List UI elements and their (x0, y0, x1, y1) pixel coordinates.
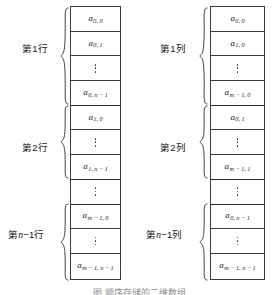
group-label-row-n: 第n−1行 (8, 227, 45, 241)
cell-term: am − 1, 0 (83, 211, 109, 221)
group-label-col-n-suffix: −1列 (161, 229, 182, 240)
group-label-col-n-prefix: 第 (146, 229, 156, 240)
cell-ellipsis (71, 229, 120, 254)
cell-term: a0, 0 (88, 14, 102, 24)
cell-term: a0, n − 1 (225, 211, 250, 221)
cell-subscript: 0, n − 1 (230, 214, 250, 221)
brace-row-n (60, 203, 69, 281)
cell-term: am − 1, 0 (225, 88, 251, 98)
cell-subscript: m − 1, n − 1 (82, 264, 114, 271)
cell-subscript: 0, 1 (93, 41, 103, 48)
cell-term: a0, n − 1 (83, 88, 108, 98)
group-label-row-2: 第2行 (22, 140, 48, 154)
cell: am − 1, n − 1 (71, 254, 120, 279)
group-label-col-1: 第1列 (160, 41, 186, 55)
cell: am − 1, n − 1 (211, 254, 264, 279)
group-label-col-2: 第2列 (160, 140, 186, 154)
cell-term: a1, 0 (88, 113, 102, 123)
cell-term: a0, 0 (230, 14, 244, 24)
cell-term: a1, n − 1 (83, 162, 108, 172)
vertical-dots-icon (95, 62, 97, 74)
cell-subscript: m − 1, 0 (229, 91, 250, 98)
cell: a0, 1 (71, 32, 120, 57)
cell-stack-row-major: a0, 0 a0, 1 a0, n − 1 a1, 0 a1, n − 1 am… (70, 6, 121, 280)
group-label-col-2-suffix: 列 (176, 142, 186, 153)
cell-subscript: 0, 0 (93, 17, 103, 24)
vertical-dots-icon (237, 62, 239, 74)
vertical-dots-icon (95, 136, 97, 148)
cell-ellipsis (71, 180, 120, 205)
figure-caption: 图 顺序存储的二维数组 (0, 286, 279, 295)
cell: am − 1, 0 (71, 205, 120, 230)
cell-subscript: m − 1, 1 (229, 165, 250, 172)
cell: a1, 0 (71, 106, 120, 131)
group-label-row-1-prefix: 第 (22, 43, 32, 54)
cell: a0, 0 (71, 7, 120, 32)
array-storage-figure: 第1行 第2行 第n−1行 a0, 0 a0, 1 (0, 0, 279, 295)
group-label-row-n-prefix: 第 (8, 229, 18, 240)
cell-term: a1, 0 (230, 39, 244, 49)
cell-stack-column-major: a0, 0 a1, 0 am − 1, 0 a0, 1 am − 1, 1 a0… (210, 6, 265, 280)
cell-term: a0, 1 (88, 39, 102, 49)
cell-term: am − 1, 1 (225, 162, 251, 172)
cell-ellipsis (211, 180, 264, 205)
vertical-dots-icon (237, 235, 239, 247)
group-label-row-1-suffix: 行 (38, 43, 48, 54)
group-label-row-n-suffix: −1行 (23, 229, 44, 240)
vertical-dots-icon (237, 185, 239, 197)
cell-subscript: m − 1, 0 (87, 214, 108, 221)
cell-ellipsis (211, 56, 264, 81)
panel-row-major: 第1行 第2行 第n−1行 a0, 0 a0, 1 (0, 0, 140, 283)
cell-subscript: 1, n − 1 (88, 165, 108, 172)
group-label-row-2-suffix: 行 (38, 142, 48, 153)
brace-col-1 (199, 7, 208, 105)
cell-subscript: 1, 0 (235, 41, 245, 48)
brace-row-1 (60, 7, 69, 105)
cell: a0, n − 1 (211, 205, 264, 230)
cell-subscript: m − 1, n − 1 (224, 264, 256, 271)
cell-ellipsis (211, 229, 264, 254)
brace-row-2 (60, 105, 69, 179)
cell-subscript: 0, 0 (235, 17, 245, 24)
cell-subscript: 1, 0 (93, 115, 103, 122)
cell: a0, 1 (211, 106, 264, 131)
cell: a1, 0 (211, 32, 264, 57)
cell-subscript: 0, n − 1 (88, 91, 108, 98)
vertical-dots-icon (95, 235, 97, 247)
cell-term: am − 1, n − 1 (219, 261, 255, 271)
cell-term: am − 1, n − 1 (77, 261, 113, 271)
group-label-col-n: 第n−1列 (146, 227, 183, 241)
cell-subscript: 0, 1 (235, 115, 245, 122)
cell: a0, n − 1 (71, 81, 120, 106)
panel-column-major: 第1列 第2列 第n−1列 a0, 0 a1, 0 am − 1 (140, 0, 279, 283)
vertical-dots-icon (95, 185, 97, 197)
group-label-col-2-prefix: 第 (160, 142, 170, 153)
group-label-row-1: 第1行 (22, 41, 48, 55)
cell: am − 1, 0 (211, 81, 264, 106)
cell-ellipsis (211, 130, 264, 155)
cell: a0, 0 (211, 7, 264, 32)
cell-ellipsis (71, 56, 120, 81)
cell: a1, n − 1 (71, 155, 120, 180)
vertical-dots-icon (237, 136, 239, 148)
brace-col-2 (199, 105, 208, 179)
brace-col-n (199, 203, 208, 281)
group-label-col-1-prefix: 第 (160, 43, 170, 54)
cell-ellipsis (71, 130, 120, 155)
group-label-row-2-prefix: 第 (22, 142, 32, 153)
cell-term: a0, 1 (230, 113, 244, 123)
group-label-col-1-suffix: 列 (176, 43, 186, 54)
cell: am − 1, 1 (211, 155, 264, 180)
